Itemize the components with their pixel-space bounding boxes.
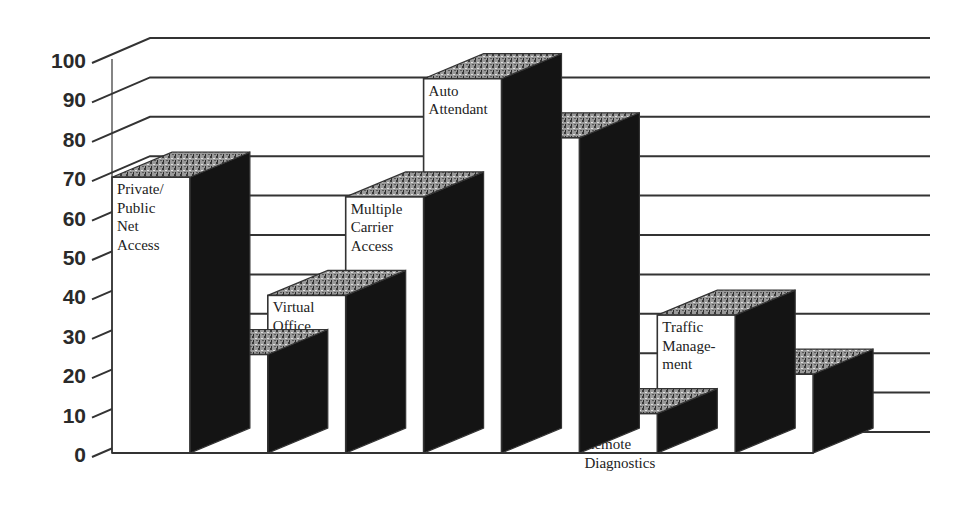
bar-side-face bbox=[346, 270, 406, 453]
y-tick-label: 60 bbox=[63, 207, 86, 230]
y-tick-label: 20 bbox=[63, 364, 86, 387]
bar-label: Traffic bbox=[662, 319, 703, 335]
bar-side-face bbox=[735, 290, 795, 453]
bar-label: ment bbox=[662, 356, 693, 372]
bar-label: Auto bbox=[429, 83, 459, 99]
y-tick-label: 0 bbox=[74, 443, 86, 466]
y-tick-label: 50 bbox=[63, 246, 86, 269]
bar-label: Diagnostics bbox=[584, 455, 655, 471]
bar-label: Attendant bbox=[429, 101, 489, 117]
bar-label: Private/ bbox=[117, 181, 164, 197]
bar: Private/PublicNetAccess bbox=[112, 152, 250, 453]
bar-label: Manage- bbox=[662, 338, 715, 354]
y-tick-label: 100 bbox=[51, 49, 86, 72]
bar-label: Access bbox=[117, 237, 160, 253]
bar-label: Carrier bbox=[351, 219, 393, 235]
y-tick-label: 30 bbox=[63, 325, 86, 348]
bar-side-face bbox=[579, 113, 639, 453]
bar-side-face bbox=[502, 54, 562, 453]
bar-side-face bbox=[424, 172, 484, 453]
y-axis: 0102030405060708090100 bbox=[51, 49, 86, 466]
bar-label: Net bbox=[117, 218, 139, 234]
bar-side-face bbox=[190, 152, 250, 453]
y-tick-label: 70 bbox=[63, 167, 86, 190]
y-tick-label: 80 bbox=[63, 128, 86, 151]
bar-label: Virtual bbox=[273, 299, 315, 315]
y-tick-label: 90 bbox=[63, 88, 86, 111]
y-tick-label: 10 bbox=[63, 404, 86, 427]
y-tick-label: 40 bbox=[63, 285, 86, 308]
bar-label: Public bbox=[117, 200, 156, 216]
3d-bar-chart: 0102030405060708090100 CallForwardExtern… bbox=[0, 0, 971, 507]
bar-label: Access bbox=[351, 238, 394, 254]
bar-label: Multiple bbox=[351, 201, 403, 217]
